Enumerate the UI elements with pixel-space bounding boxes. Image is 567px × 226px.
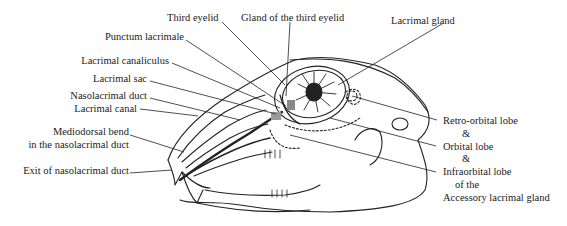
label-gland-third-eyelid: Gland of the third eyelid: [241, 12, 344, 24]
label-ampersand-1: &: [462, 128, 470, 140]
label-third-eyelid: Third eyelid: [167, 12, 219, 24]
label-exit-nasolacrimal-duct: Exit of nasolacrimal duct: [23, 165, 129, 177]
label-accessory-lacrimal-gland: Accessory lacrimal gland: [443, 192, 550, 204]
label-ampersand-2: &: [462, 153, 470, 165]
label-mediodorsal-bend: Mediodorsal bend: [53, 126, 129, 138]
label-lacrimal-canal: Lacrimal canal: [74, 103, 137, 115]
label-lacrimal-canaliculus: Lacrimal canaliculus: [81, 55, 169, 67]
label-retro-orbital-lobe: Retro-orbital lobe: [443, 115, 518, 127]
label-orbital-lobe: Orbital lobe: [443, 141, 493, 153]
label-infraorbital-lobe: Infraorbital lobe: [443, 166, 512, 178]
label-nasolacrimal-duct: Nasolacrimal duct: [70, 90, 147, 102]
label-mediodorsal-bend-2: in the nasolacrimal duct: [28, 139, 129, 151]
label-lacrimal-gland: Lacrimal gland: [391, 15, 455, 27]
label-lacrimal-sac: Lacrimal sac: [93, 73, 147, 85]
label-of-the: of the: [455, 179, 479, 191]
label-punctum-lacrimale: Punctum lacrimale: [105, 31, 184, 43]
